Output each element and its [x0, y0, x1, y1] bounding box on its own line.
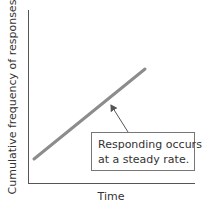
annotation-text-line1: Responding occurs [98, 138, 202, 151]
x-axis-label: Time [97, 190, 125, 203]
annotation-text-line2: at a steady rate. [98, 153, 189, 166]
y-axis-label: Cumulative frequency of responses [6, 0, 19, 194]
cumulative-record-chart: Responding occurs at a steady rate. Time… [0, 0, 204, 203]
annotation-arrow [111, 105, 128, 132]
